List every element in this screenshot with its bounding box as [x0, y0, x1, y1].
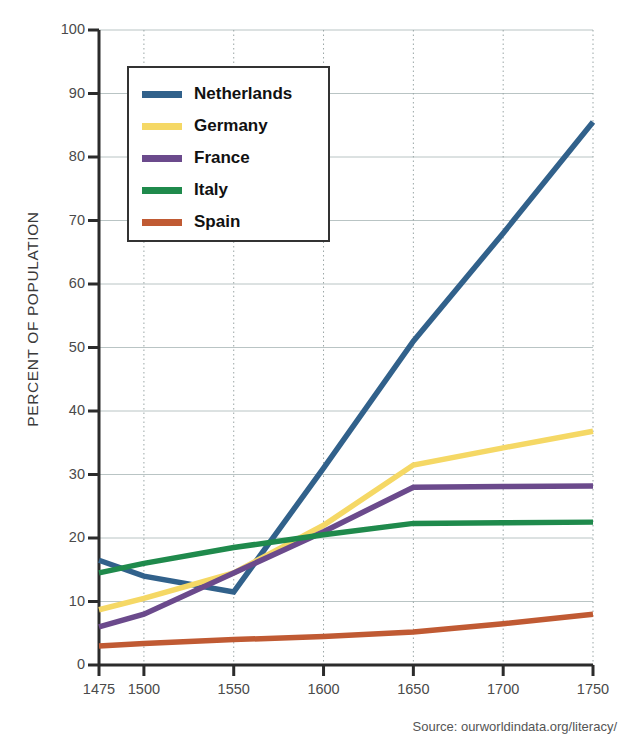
legend-swatch-icon	[142, 187, 182, 194]
y-tick-label: 20	[45, 529, 85, 545]
y-tick-label: 60	[45, 275, 85, 291]
legend-swatch-icon	[142, 219, 182, 226]
legend-swatch-icon	[142, 155, 182, 162]
legend-item-label: Germany	[194, 116, 268, 136]
x-tick-label: 1700	[473, 681, 533, 697]
legend-item-netherlands[interactable]: Netherlands	[142, 78, 328, 110]
y-tick-label: 30	[45, 466, 85, 482]
legend-item-france[interactable]: France	[142, 142, 328, 174]
legend-item-label: Netherlands	[194, 84, 292, 104]
legend-item-label: France	[194, 148, 250, 168]
legend-swatch-icon	[142, 91, 182, 98]
chart-legend: NetherlandsGermanyFranceItalySpain	[127, 66, 330, 242]
y-tick-label: 70	[45, 212, 85, 228]
x-tick-label: 1550	[204, 681, 264, 697]
legend-item-italy[interactable]: Italy	[142, 174, 328, 206]
legend-swatch-icon	[142, 123, 182, 130]
y-tick-label: 10	[45, 593, 85, 609]
legend-item-label: Spain	[194, 212, 240, 232]
y-tick-label: 40	[45, 402, 85, 418]
y-tick-label: 80	[45, 148, 85, 164]
legend-item-label: Italy	[194, 180, 228, 200]
source-note: Source: ourworldindata.org/literacy/	[413, 719, 618, 734]
x-tick-label: 1750	[563, 681, 623, 697]
legend-item-germany[interactable]: Germany	[142, 110, 328, 142]
legend-item-spain[interactable]: Spain	[142, 206, 328, 238]
y-tick-label: 90	[45, 85, 85, 101]
y-tick-label: 50	[45, 339, 85, 355]
y-tick-label: 100	[45, 21, 85, 37]
y-tick-label: 0	[45, 656, 85, 672]
x-tick-label: 1600	[294, 681, 354, 697]
literacy-line-chart: PERCENT OF POPULATION 010203040506070809…	[0, 0, 626, 756]
x-tick-label: 1650	[383, 681, 443, 697]
x-tick-label: 1500	[114, 681, 174, 697]
